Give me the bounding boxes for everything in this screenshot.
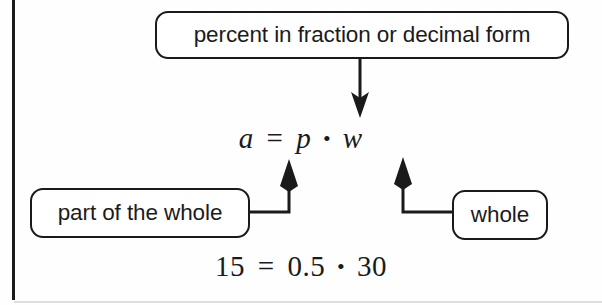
percent-equation-figure: percent in fraction or decimal form part… (0, 0, 602, 305)
label-box-percent: percent in fraction or decimal form (155, 11, 569, 59)
numeric-multiplication-dot: • (333, 254, 349, 279)
percent-arrow (351, 59, 369, 118)
numeric-equation: 15 = 0.5 • 30 (0, 250, 602, 283)
label-box-part-text: part of the whole (58, 200, 223, 226)
symbolic-term-a: a (239, 122, 255, 154)
label-box-whole: whole (452, 190, 548, 240)
whole-arrow (394, 157, 452, 212)
label-box-part-of-the-whole: part of the whole (30, 188, 250, 238)
numeric-equals-sign: = (253, 250, 280, 282)
symbolic-term-w: w (343, 122, 363, 154)
label-box-whole-text: whole (471, 202, 529, 228)
symbolic-term-p: p (296, 122, 312, 154)
numeric-term-w: 30 (357, 250, 387, 282)
part-arrow (250, 159, 298, 212)
symbolic-equation: a = p • w (0, 122, 602, 155)
symbolic-multiplication-dot: • (320, 126, 335, 151)
numeric-term-p: 0.5 (287, 250, 325, 282)
numeric-term-a: 15 (215, 250, 245, 282)
label-box-percent-text: percent in fraction or decimal form (194, 22, 531, 48)
symbolic-equals-sign: = (263, 122, 288, 154)
